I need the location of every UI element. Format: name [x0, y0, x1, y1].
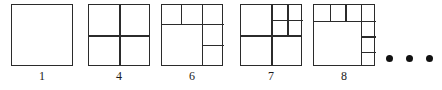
- ellipsis-dot-1: [386, 55, 393, 62]
- ellipsis-dot-2: [406, 55, 413, 62]
- square-8-label: 8: [313, 70, 375, 82]
- square-4-label: 4: [88, 70, 150, 82]
- divider-horizontal-rightcol-1: [361, 21, 377, 23]
- square-7: [240, 4, 302, 66]
- divider-horizontal-right-lower: [202, 45, 225, 47]
- divider-vertical-topleft-split: [181, 5, 183, 24]
- divider-horizontal-rightcol-2: [361, 36, 377, 38]
- figure-item-4: 4: [88, 4, 150, 66]
- square-7-label: 7: [240, 70, 302, 82]
- divider-horizontal-topright-split: [271, 20, 303, 22]
- divider-vertical-toprow-1: [330, 5, 332, 21]
- divider-vertical-two-thirds: [202, 5, 204, 65]
- square-1: [11, 4, 73, 66]
- divider-horizontal-rightcol-3: [361, 52, 377, 54]
- divider-horizontal-top-row: [314, 21, 361, 23]
- divider-vertical-right-column: [361, 5, 363, 65]
- figure-item-8: 8: [313, 4, 375, 66]
- square-6: [161, 4, 223, 66]
- square-1-label: 1: [11, 70, 73, 82]
- square-8: [313, 4, 375, 66]
- ellipsis-dot-3: [426, 55, 433, 62]
- divider-vertical-toprow-2: [345, 5, 347, 21]
- figure-item-1: 1: [11, 4, 73, 66]
- square-6-label: 6: [161, 70, 223, 82]
- squared-squares-figure: 1 4 6 7: [0, 0, 442, 90]
- divider-horizontal-mid: [89, 35, 149, 37]
- figure-item-6: 6: [161, 4, 223, 66]
- divider-horizontal-mid: [241, 35, 301, 37]
- square-4: [88, 4, 150, 66]
- divider-horizontal-right-upper: [202, 24, 225, 26]
- figure-item-7: 7: [240, 4, 302, 66]
- divider-horizontal-top-left: [162, 24, 202, 26]
- ellipsis-dots: [386, 55, 438, 67]
